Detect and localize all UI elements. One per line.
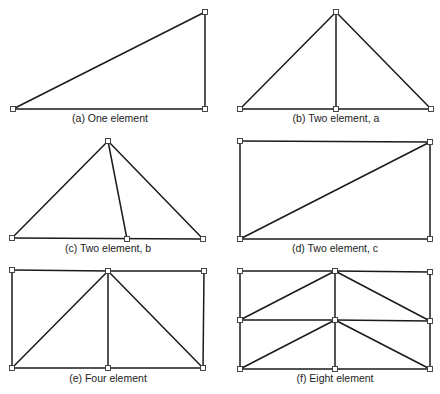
mesh-edge: [240, 320, 335, 369]
mesh-node-icon: [106, 366, 111, 371]
mesh-node-icon: [10, 366, 15, 371]
mesh-edge: [108, 141, 127, 239]
mesh-node-icon: [238, 269, 243, 274]
mesh-edge: [13, 12, 205, 109]
panel-caption: (a) One element: [72, 112, 148, 124]
mesh-panel-f: (f) Eight element: [238, 269, 433, 385]
mesh-edge: [335, 320, 430, 369]
mesh-node-icon: [106, 269, 111, 274]
mesh-edge: [240, 142, 430, 239]
mesh-panel-e: (e) Four element: [10, 268, 207, 385]
panel-caption: (e) Four element: [69, 372, 147, 384]
mesh-edge: [12, 270, 108, 271]
mesh-node-icon: [201, 366, 206, 371]
mesh-node-icon: [333, 367, 338, 372]
mesh-edge: [108, 271, 203, 368]
mesh-edge: [335, 271, 430, 321]
mesh-node-icon: [203, 10, 208, 15]
mesh-node-icon: [428, 237, 433, 242]
mesh-edge: [336, 12, 431, 109]
mesh-edge: [335, 271, 430, 272]
mesh-edge: [108, 141, 203, 239]
mesh-node-icon: [238, 107, 243, 112]
mesh-node-icon: [428, 140, 433, 145]
mesh-node-icon: [428, 270, 433, 275]
mesh-node-icon: [201, 237, 206, 242]
mesh-node-icon: [238, 237, 243, 242]
mesh-panel-c: (c) Two element, b: [10, 139, 206, 255]
mesh-edge: [203, 271, 204, 368]
mesh-panel-d: (d) Two element, c: [238, 139, 433, 255]
mesh-edge: [240, 271, 335, 320]
mesh-node-icon: [428, 319, 433, 324]
mesh-node-icon: [125, 237, 130, 242]
panel-caption: (c) Two element, b: [65, 242, 151, 254]
mesh-edge: [12, 271, 108, 368]
mesh-node-icon: [238, 139, 243, 144]
mesh-edge: [335, 320, 430, 321]
finite-element-mesh-figure: (a) One element(b) Two element, a(c) Two…: [0, 0, 440, 394]
panel-caption: (b) Two element, a: [293, 112, 380, 124]
mesh-node-icon: [428, 367, 433, 372]
mesh-edge: [12, 238, 203, 239]
mesh-node-icon: [333, 318, 338, 323]
panel-caption: (d) Two element, c: [292, 242, 378, 254]
mesh-edge: [240, 12, 336, 109]
mesh-node-icon: [334, 107, 339, 112]
mesh-node-icon: [10, 268, 15, 273]
mesh-node-icon: [203, 107, 208, 112]
mesh-node-icon: [334, 10, 339, 15]
panel-caption: (f) Eight element: [296, 372, 373, 384]
mesh-node-icon: [10, 236, 15, 241]
mesh-edge: [240, 141, 430, 142]
mesh-node-icon: [238, 318, 243, 323]
mesh-node-icon: [429, 107, 434, 112]
mesh-node-icon: [11, 107, 16, 112]
mesh-panel-b: (b) Two element, a: [238, 10, 434, 125]
mesh-panel-a: (a) One element: [11, 10, 208, 125]
mesh-node-icon: [333, 269, 338, 274]
mesh-node-icon: [238, 367, 243, 372]
mesh-edge: [12, 141, 108, 238]
mesh-node-icon: [202, 269, 207, 274]
mesh-node-icon: [106, 139, 111, 144]
